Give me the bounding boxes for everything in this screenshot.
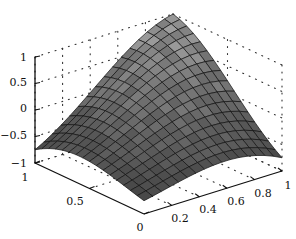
surface-mesh xyxy=(35,14,282,201)
x-tick-label: 1 xyxy=(285,179,292,192)
y-tick-label: 1 xyxy=(22,171,29,184)
y-tick-label: 0 xyxy=(137,221,144,234)
x-tick-label: 0.6 xyxy=(227,195,245,208)
y-tick-label: 0.5 xyxy=(66,195,84,208)
z-tick-label: 1 xyxy=(20,51,27,64)
x-tick-label: 0.2 xyxy=(171,212,189,225)
surface-plot: 1 0.5 0 −0.5 −1 1 0.5 0 0.2 0.4 0.6 0.8 … xyxy=(0,0,296,239)
z-tick-label: 0.5 xyxy=(10,76,28,89)
x-tick-label: 0.8 xyxy=(254,187,272,200)
z-tick-label: −1 xyxy=(11,157,27,170)
z-tick-label: −0.5 xyxy=(0,129,27,142)
z-tick-label: 0 xyxy=(20,102,27,115)
x-tick-label: 0.4 xyxy=(199,203,217,216)
